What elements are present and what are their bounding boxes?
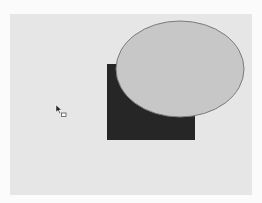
rectangle-tool-cursor-icon <box>55 104 67 118</box>
shapes-layer <box>0 0 262 203</box>
drawing-app <box>0 0 262 203</box>
gray-ellipse-shape[interactable] <box>116 21 244 117</box>
